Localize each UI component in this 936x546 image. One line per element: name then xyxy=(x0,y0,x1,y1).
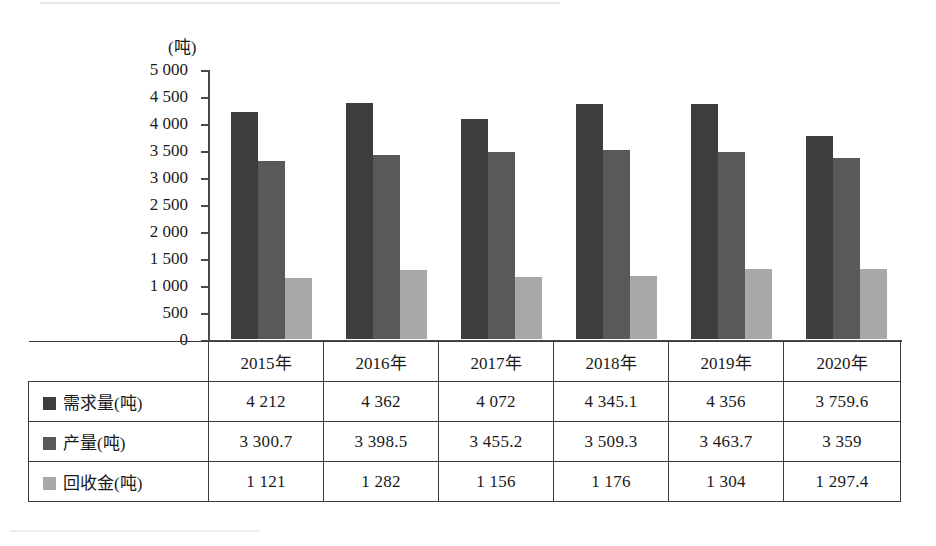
table-row: 回收金(吨)1 1211 2821 1561 1761 3041 297.4 xyxy=(29,462,901,502)
legend-swatch-icon xyxy=(43,437,56,450)
series-label-cell: 产量(吨) xyxy=(29,422,209,462)
bar xyxy=(806,136,833,339)
bar xyxy=(231,112,258,339)
bar xyxy=(745,269,772,339)
y-axis-unit-label: (吨) xyxy=(168,33,196,58)
plot-area: 5 0004 5004 0003 5003 0002 5002 0001 500… xyxy=(208,70,900,341)
bar xyxy=(603,150,630,340)
table-value-cell: 1 297.4 xyxy=(784,462,901,502)
table-value-cell: 4 345.1 xyxy=(554,382,669,422)
series-label-text: 回收金(吨) xyxy=(63,474,142,493)
table-header-cell: 2019年 xyxy=(669,342,784,382)
bar xyxy=(576,104,603,339)
table-value-cell: 3 509.3 xyxy=(554,422,669,462)
table-header-cell: 2017年 xyxy=(439,342,554,382)
chart-figure: (吨) 5 0004 5004 0003 5003 0002 5002 0001… xyxy=(0,0,936,546)
table-header-row: 2015年2016年2017年2018年2019年2020年 xyxy=(29,342,901,382)
series-label-cell: 回收金(吨) xyxy=(29,462,209,502)
bar xyxy=(515,277,542,339)
bar xyxy=(718,152,745,339)
bar-group xyxy=(325,69,440,339)
bar xyxy=(833,158,860,339)
y-axis-tick-label: 4 500 xyxy=(150,88,188,105)
table-corner-cell xyxy=(29,342,209,382)
y-axis-tick-label: 5 000 xyxy=(150,61,188,78)
legend-swatch-icon xyxy=(43,397,56,410)
bar xyxy=(258,161,285,339)
table-value-cell: 3 398.5 xyxy=(324,422,439,462)
table-header-cell: 2018年 xyxy=(554,342,669,382)
table-row: 产量(吨)3 300.73 398.53 455.23 509.33 463.7… xyxy=(29,422,901,462)
y-axis-tick xyxy=(201,205,209,207)
y-axis-tick xyxy=(201,124,209,126)
bar xyxy=(488,152,515,339)
y-axis-tick-label: 1 500 xyxy=(150,250,188,267)
table-value-cell: 3 300.7 xyxy=(209,422,324,462)
y-axis-tick-label: 500 xyxy=(163,304,189,321)
y-axis-tick-label: 1 000 xyxy=(150,277,188,294)
table-value-cell: 4 212 xyxy=(209,382,324,422)
bar-group xyxy=(555,69,670,339)
table-value-cell: 1 121 xyxy=(209,462,324,502)
y-axis-tick xyxy=(201,232,209,234)
y-axis-tick xyxy=(201,286,209,288)
table-value-cell: 3 759.6 xyxy=(784,382,901,422)
table-value-cell: 4 356 xyxy=(669,382,784,422)
y-axis-tick xyxy=(201,313,209,315)
y-axis-tick-label: 2 500 xyxy=(150,196,188,213)
table-value-cell: 1 156 xyxy=(439,462,554,502)
table-header-cell: 2020年 xyxy=(784,342,901,382)
bar xyxy=(285,278,312,339)
bar xyxy=(373,155,400,339)
series-label-text: 需求量(吨) xyxy=(63,394,142,413)
table-value-cell: 1 304 xyxy=(669,462,784,502)
series-label-cell: 需求量(吨) xyxy=(29,382,209,422)
bar xyxy=(346,103,373,339)
table-value-cell: 3 455.2 xyxy=(439,422,554,462)
table-body: 2015年2016年2017年2018年2019年2020年需求量(吨)4 21… xyxy=(29,342,901,502)
data-table: 2015年2016年2017年2018年2019年2020年需求量(吨)4 21… xyxy=(28,341,901,502)
bar xyxy=(691,104,718,339)
bar-group xyxy=(670,69,785,339)
bar xyxy=(630,276,657,340)
table-header-cell: 2015年 xyxy=(209,342,324,382)
y-axis-tick-label: 3 000 xyxy=(150,169,188,186)
table-value-cell: 1 176 xyxy=(554,462,669,502)
table-value-cell: 3 359 xyxy=(784,422,901,462)
y-axis-tick-label: 2 000 xyxy=(150,223,188,240)
y-axis-tick xyxy=(201,151,209,153)
table-row: 需求量(吨)4 2124 3624 0724 345.14 3563 759.6 xyxy=(29,382,901,422)
bar xyxy=(461,119,488,339)
table-value-cell: 4 072 xyxy=(439,382,554,422)
scan-artifact-top xyxy=(40,2,560,4)
table-value-cell: 3 463.7 xyxy=(669,422,784,462)
bar xyxy=(860,269,887,339)
series-label-text: 产量(吨) xyxy=(63,434,125,453)
y-axis-tick xyxy=(201,97,209,99)
bar xyxy=(400,270,427,339)
table-value-cell: 4 362 xyxy=(324,382,439,422)
table-value-cell: 1 282 xyxy=(324,462,439,502)
y-axis-tick-label: 3 500 xyxy=(150,142,188,159)
legend-swatch-icon xyxy=(43,477,56,490)
y-axis-tick xyxy=(201,259,209,261)
bar-group xyxy=(440,69,555,339)
y-axis-tick xyxy=(201,178,209,180)
bar-group xyxy=(785,69,900,339)
scan-artifact-bottom xyxy=(10,530,260,532)
table-header-cell: 2016年 xyxy=(324,342,439,382)
bar-group xyxy=(210,69,325,339)
y-axis-tick-label: 4 000 xyxy=(150,115,188,132)
y-axis-tick xyxy=(201,70,209,72)
